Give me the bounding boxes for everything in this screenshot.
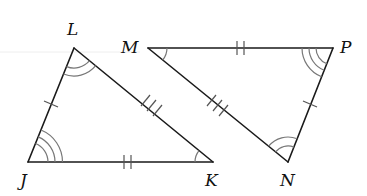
single-arc-k (195, 151, 199, 162)
single-arc-m (163, 48, 167, 60)
vertex-label-p: P (340, 39, 351, 56)
vertex-label-n: N (280, 172, 295, 189)
side-lj (28, 48, 74, 162)
triangle-jkl (28, 48, 213, 169)
vertex-label-l: L (67, 21, 78, 38)
side-kl (74, 48, 213, 162)
triangle-mnp (148, 41, 333, 162)
side-pn (288, 48, 333, 162)
vertex-label-m: M (121, 39, 138, 56)
vertex-label-k: K (205, 172, 218, 189)
congruent-triangles-diagram (0, 0, 367, 196)
vertex-label-j: J (20, 172, 27, 189)
